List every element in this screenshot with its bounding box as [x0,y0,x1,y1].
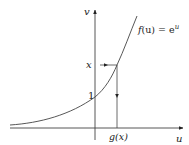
curve-label: f(u) = eu [137,23,180,35]
v-axis-label: v [84,6,90,17]
u-axis-label: u [176,133,182,144]
x-value-label: x [86,59,92,70]
g-label: g(x) [109,131,128,142]
curve-label-exp: u [175,23,180,31]
down-arrow-icon [115,94,119,98]
right-arrow-icon [104,63,108,67]
y-intercept-label: 1 [88,90,94,101]
curve-label-arg: (u) = e [142,24,176,35]
exp-inverse-diagram: v u f(u) = eu x 1 g(x) [0,0,189,145]
exp-curve [10,16,137,125]
g-label-arg: (x) [115,131,128,142]
